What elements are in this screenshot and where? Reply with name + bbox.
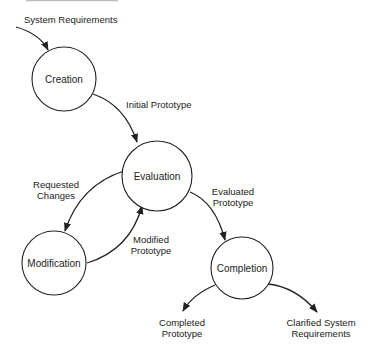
label-completed-prototype-line1: Completed [159, 317, 205, 328]
edge-completed-prototype [183, 285, 215, 311]
node-completion: Completion [211, 237, 273, 299]
node-label: Modification [27, 258, 80, 269]
label-modified-prototype-line2: Prototype [131, 245, 172, 256]
label-clarified-system-requirements-line1: Clarified System [286, 317, 355, 328]
edge-clarified-system-requirements [268, 284, 317, 312]
node-modification: Modification [22, 231, 86, 295]
label-clarified-system-requirements-line2: Requirements [291, 328, 350, 339]
label-completed-prototype-line2: Prototype [162, 328, 203, 339]
node-creation: Creation [32, 47, 96, 111]
edge-system-requirements [16, 27, 48, 50]
cropped-text-fragment [26, 0, 118, 1]
label-evaluated-prototype-line2: Prototype [213, 197, 254, 208]
label-initial-prototype: Initial Prototype [126, 99, 191, 110]
label-requested-changes-line1: Requested [33, 179, 79, 190]
prototyping-process-diagram: Creation Evaluation Modification Complet… [0, 0, 372, 353]
node-label: Creation [45, 74, 83, 85]
node-label: Evaluation [134, 171, 181, 182]
node-label: Completion [217, 263, 268, 274]
node-evaluation: Evaluation [122, 141, 192, 211]
label-evaluated-prototype-line1: Evaluated [212, 186, 254, 197]
label-modified-prototype-line1: Modified [133, 234, 169, 245]
label-system-requirements: System Requirements [24, 14, 118, 25]
label-requested-changes-line2: Changes [37, 190, 75, 201]
